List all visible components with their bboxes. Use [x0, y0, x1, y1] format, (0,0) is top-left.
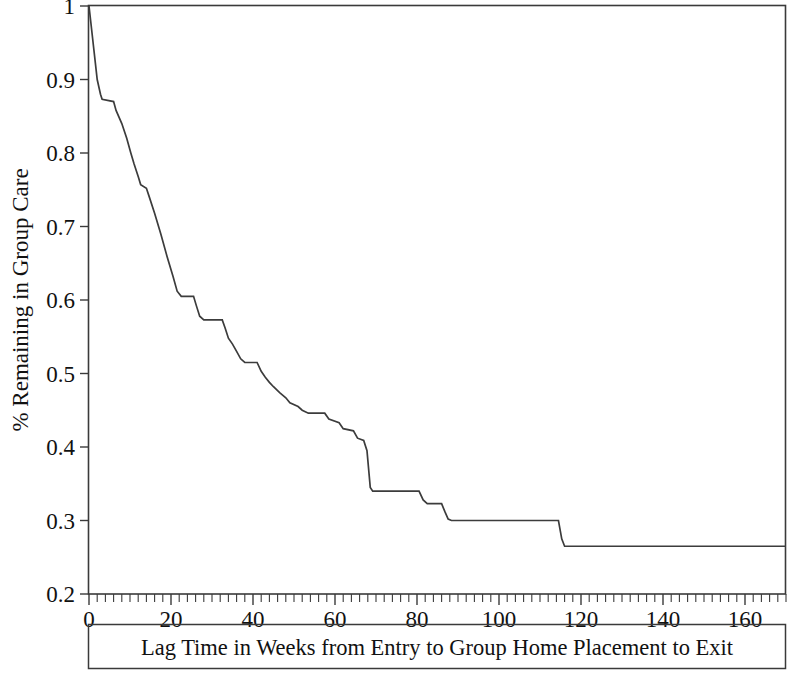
y-tick-label: 1: [64, 0, 76, 19]
survival-curve-line: [89, 6, 786, 546]
y-tick-label: 0.4: [46, 435, 75, 460]
x-tick-label: 160: [728, 607, 763, 632]
x-tick-label: 120: [564, 607, 599, 632]
y-axis-title: % Remaining in Group Care: [8, 168, 33, 431]
x-tick-label: 140: [646, 607, 681, 632]
x-tick-label: 20: [160, 607, 183, 632]
plot-frame: [89, 6, 786, 595]
survival-chart-svg: 0.20.30.40.50.60.70.80.91 02040608010012…: [0, 0, 797, 680]
y-tick-label: 0.5: [46, 362, 75, 387]
x-tick-label: 40: [242, 607, 265, 632]
y-tick-label: 0.3: [46, 509, 75, 534]
y-tick-label: 0.8: [46, 141, 75, 166]
y-axis: 0.20.30.40.50.60.70.80.91: [46, 0, 89, 607]
y-tick-label: 0.9: [46, 68, 75, 93]
x-tick-label: 60: [324, 607, 347, 632]
plot-area-border: [89, 6, 786, 595]
x-tick-label: 100: [482, 607, 517, 632]
y-tick-label: 0.2: [46, 582, 75, 607]
series-group: [89, 6, 786, 546]
x-axis-title-group: Lag Time in Weeks from Entry to Group Ho…: [89, 625, 786, 669]
y-tick-label: 0.6: [46, 288, 75, 313]
x-axis-title: Lag Time in Weeks from Entry to Group Ho…: [141, 635, 734, 660]
x-axis: 020406080100120140160: [83, 594, 786, 632]
y-tick-label: 0.7: [46, 215, 75, 240]
x-tick-label: 80: [406, 607, 429, 632]
chart-figure: 0.20.30.40.50.60.70.80.91 02040608010012…: [0, 0, 797, 680]
